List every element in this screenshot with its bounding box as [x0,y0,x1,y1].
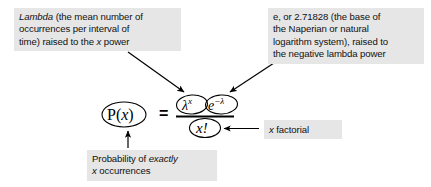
e-exponent: −λ [214,96,224,106]
probability-note: Probability of exactly x occurrences [87,150,217,181]
e-note-line4: the negative lambda power [273,48,386,59]
lambda-power-term: λx [182,96,192,114]
lambda-note-line3b: power [101,36,129,47]
e-note-line2: the Naperian or natural [273,23,369,34]
arrow-e-note-to-e-term [230,61,277,92]
e-note-line3: logarithm system), raised to [273,36,388,47]
lambda-note-line2: occurrences per interval of [19,23,129,34]
lambda-note-italic: Lambda [19,11,53,22]
e-note: e, or 2.71828 (the base of the Naperian … [268,8,424,64]
probability-note-line1a: Probability of [92,153,149,164]
probability-note-line2: occurrences [97,165,151,176]
lambda-exponent: x [188,96,192,106]
lambda-note: Lambda (the mean number of occurrences p… [14,8,181,51]
px-base: P( [107,106,121,123]
factorial-term: x! [196,120,208,137]
factorial-note: x factorial [264,120,342,139]
px-term: P(x) [107,106,134,124]
e-note-line1: e, or 2.71828 (the base of [273,11,380,22]
px-close: ) [128,106,133,123]
e-power-term: e−λ [208,96,224,114]
lambda-note-line3a: time) raised to the [19,36,96,47]
arrow-lambda-note-to-lambda-term [128,52,184,92]
diagram-canvas: P(x) = λx e−λ x! Lambda (the mean number… [0,0,431,187]
factorial-note-label: factorial [274,124,309,135]
equals-sign: = [159,105,168,123]
lambda-note-line1: (the mean number of [53,11,143,22]
probability-note-italic: exactly [149,153,178,164]
